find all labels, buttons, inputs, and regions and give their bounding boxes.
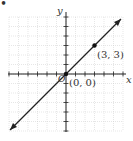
origin-label: O: [58, 74, 66, 84]
graph: (3, 3) (0, 0) O x y •: [0, 0, 133, 141]
bullet: •: [0, 0, 7, 11]
y-axis-label: y: [56, 5, 63, 16]
point-label-3-3: (3, 3): [97, 49, 124, 60]
point-3-3: [92, 43, 96, 47]
x-axis-label: x: [126, 74, 132, 85]
point-label-origin: (0, 0): [69, 77, 96, 88]
